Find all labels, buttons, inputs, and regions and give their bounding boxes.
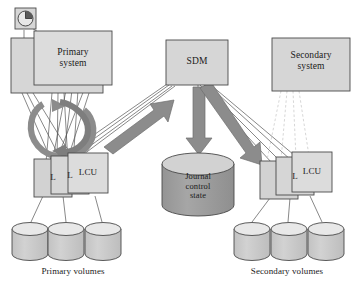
cylinder — [12, 223, 48, 261]
secondary-lcu-stack[interactable] — [260, 152, 332, 199]
clock-icon — [15, 8, 36, 29]
cylinder — [85, 223, 121, 261]
cylinder — [234, 223, 270, 261]
sdm-to-secondary-lcu-arrow — [200, 82, 262, 165]
sdm-node[interactable] — [166, 40, 228, 85]
diagram-canvas: Primary system SDM Secondary system Jour… — [0, 0, 356, 285]
lcu-to-sdm-arrow — [104, 100, 174, 154]
primary-system-node[interactable] — [11, 31, 112, 93]
cylinder — [271, 223, 307, 261]
primary-volumes — [12, 223, 121, 261]
diagram-svg — [0, 0, 356, 285]
secondary-system-node[interactable] — [272, 38, 350, 91]
secondary-volumes — [234, 223, 344, 261]
cylinder — [48, 223, 84, 261]
cylinder — [308, 223, 344, 261]
journal-cylinder — [162, 153, 234, 216]
primary-lcu-stack[interactable] — [34, 153, 108, 197]
